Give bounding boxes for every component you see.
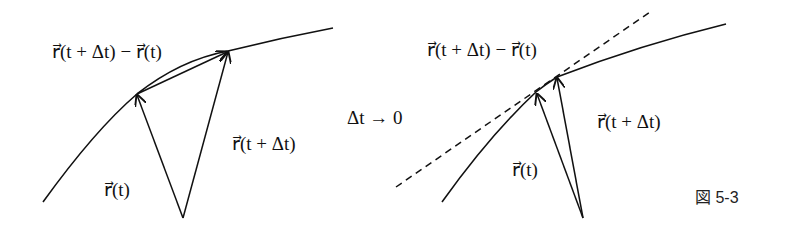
limit-label: Δt → 0 (347, 108, 403, 127)
right-label-difference: r⃗(t + Δt) − r⃗(t) (427, 40, 537, 59)
diagram-canvas: r⃗(t + Δt) − r⃗(t) r⃗(t + Δt) r⃗(t) Δt →… (0, 0, 786, 231)
right-vector-r-t-dt (557, 78, 583, 218)
right-label-r-t-dt: r⃗(t + Δt) (597, 112, 661, 131)
left-vector-r-t-dt (183, 52, 228, 218)
left-vector-r-t (137, 95, 183, 218)
left-label-r-t-dt: r⃗(t + Δt) (232, 134, 296, 153)
right-vector-r-t (537, 94, 583, 218)
right-label-r-t: r⃗(t) (512, 160, 538, 179)
figure-caption: 図 5-3 (695, 190, 739, 206)
left-label-r-t: r⃗(t) (104, 180, 130, 199)
left-label-difference: r⃗(t + Δt) − r⃗(t) (52, 42, 162, 61)
